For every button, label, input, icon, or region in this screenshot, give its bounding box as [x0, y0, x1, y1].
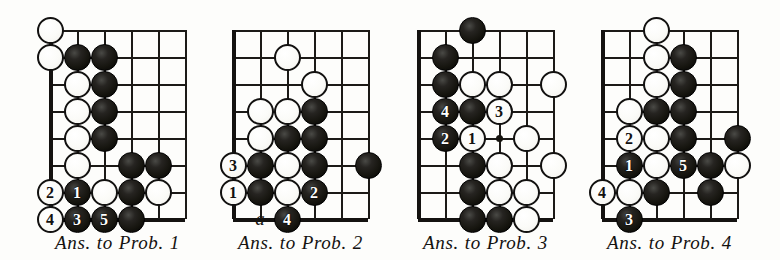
numbered-stone-white-2[interactable]: 2: [616, 125, 643, 152]
stone-white[interactable]: [64, 125, 91, 152]
stone-move-number: [515, 127, 538, 150]
stone-white[interactable]: [540, 152, 567, 179]
numbered-stone-black-2[interactable]: 2: [301, 179, 328, 206]
stone-black[interactable]: [459, 17, 486, 44]
stone-black[interactable]: [670, 71, 697, 98]
stone-black[interactable]: [486, 206, 513, 233]
stone-black[interactable]: [91, 125, 118, 152]
stone-black[interactable]: [459, 98, 486, 125]
stone-black[interactable]: [91, 44, 118, 71]
stone-black[interactable]: [355, 152, 382, 179]
stone-black[interactable]: [459, 206, 486, 233]
stone-white[interactable]: [724, 152, 751, 179]
stone-move-number: [698, 153, 723, 178]
stone-black[interactable]: [118, 179, 145, 206]
stone-move-number: 2: [433, 126, 458, 151]
stone-move-number: 2: [39, 181, 62, 204]
stone-white[interactable]: [64, 98, 91, 125]
stone-black[interactable]: [118, 206, 145, 233]
numbered-stone-white-1[interactable]: 1: [220, 179, 247, 206]
stone-white[interactable]: [274, 44, 301, 71]
stone-white[interactable]: [513, 125, 540, 152]
stone-move-number: 3: [488, 100, 511, 123]
stone-white[interactable]: [64, 71, 91, 98]
stone-move-number: [487, 207, 512, 232]
stone-white[interactable]: [486, 179, 513, 206]
stone-black[interactable]: [247, 152, 274, 179]
stone-white[interactable]: [513, 206, 540, 233]
stone-black[interactable]: [670, 98, 697, 125]
stone-black[interactable]: [670, 44, 697, 71]
numbered-stone-black-4[interactable]: 4: [432, 98, 459, 125]
stone-white[interactable]: [486, 152, 513, 179]
stone-black[interactable]: [91, 98, 118, 125]
stone-white[interactable]: [616, 179, 643, 206]
stone-black[interactable]: [91, 71, 118, 98]
stone-black[interactable]: [301, 125, 328, 152]
stone-white[interactable]: [643, 125, 670, 152]
stone-black[interactable]: [643, 179, 670, 206]
numbered-stone-black-3[interactable]: 3: [64, 206, 91, 233]
numbered-stone-white-4[interactable]: 4: [589, 179, 616, 206]
stone-white[interactable]: [513, 179, 540, 206]
stone-move-number: [66, 100, 89, 123]
stone-white[interactable]: [274, 179, 301, 206]
stone-move-number: [66, 73, 89, 96]
stone-black[interactable]: [64, 44, 91, 71]
stone-white[interactable]: [301, 71, 328, 98]
stone-white[interactable]: [459, 71, 486, 98]
stone-white[interactable]: [274, 152, 301, 179]
caption-word: Prob.: [671, 232, 716, 253]
grid-line-vertical: [368, 30, 370, 219]
stone-black[interactable]: [247, 179, 274, 206]
stone-move-number: [66, 127, 89, 150]
stone-black[interactable]: [145, 152, 172, 179]
numbered-stone-black-5[interactable]: 5: [91, 206, 118, 233]
numbered-stone-white-4[interactable]: 4: [37, 206, 64, 233]
stone-black[interactable]: [724, 125, 751, 152]
stone-black[interactable]: [459, 179, 486, 206]
stone-white[interactable]: [643, 152, 670, 179]
go-board: 21543: [602, 30, 737, 219]
stone-white[interactable]: [643, 71, 670, 98]
numbered-stone-black-4[interactable]: 4: [274, 206, 301, 233]
stone-white[interactable]: [37, 44, 64, 71]
stone-black[interactable]: [118, 152, 145, 179]
stone-black[interactable]: [697, 179, 724, 206]
stone-black[interactable]: [432, 71, 459, 98]
stone-white[interactable]: [247, 125, 274, 152]
stone-white[interactable]: [540, 71, 567, 98]
numbered-stone-white-1[interactable]: 1: [459, 125, 486, 152]
stone-white[interactable]: [37, 17, 64, 44]
numbered-stone-black-1[interactable]: 1: [616, 152, 643, 179]
stone-black[interactable]: [643, 98, 670, 125]
numbered-stone-white-3[interactable]: 3: [486, 98, 513, 125]
stone-white[interactable]: [643, 17, 670, 44]
stone-white[interactable]: [643, 44, 670, 71]
stone-move-number: [276, 46, 299, 69]
stone-black[interactable]: [670, 125, 697, 152]
stone-black[interactable]: [697, 152, 724, 179]
stone-black[interactable]: [432, 44, 459, 71]
numbered-stone-black-3[interactable]: 3: [616, 206, 643, 233]
numbered-stone-black-1[interactable]: 1: [64, 179, 91, 206]
stone-black[interactable]: [274, 125, 301, 152]
numbered-stone-white-3[interactable]: 3: [220, 152, 247, 179]
numbered-stone-black-5[interactable]: 5: [670, 152, 697, 179]
numbered-stone-black-2[interactable]: 2: [432, 125, 459, 152]
stone-black[interactable]: [301, 152, 328, 179]
stone-white[interactable]: [616, 98, 643, 125]
stone-move-number: [515, 181, 538, 204]
stone-move-number: [433, 45, 458, 70]
stone-white[interactable]: [247, 98, 274, 125]
caption-word: 3: [538, 232, 548, 253]
numbered-stone-white-2[interactable]: 2: [37, 179, 64, 206]
stone-black[interactable]: [301, 98, 328, 125]
stone-white[interactable]: [91, 179, 118, 206]
stone-black[interactable]: [459, 152, 486, 179]
stone-white[interactable]: [486, 71, 513, 98]
stone-white[interactable]: [64, 152, 91, 179]
stone-move-number: [276, 154, 299, 177]
stone-white[interactable]: [145, 179, 172, 206]
stone-white[interactable]: [274, 98, 301, 125]
